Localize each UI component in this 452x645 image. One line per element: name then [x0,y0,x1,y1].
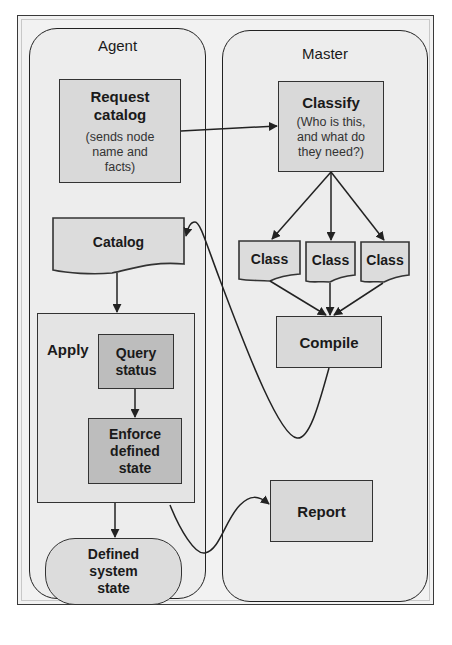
agent-lane-title: Agent [30,37,205,54]
master-lane-title: Master [223,45,427,62]
defined-system-state-node: Defined system state [45,538,182,605]
enforce-line3: state [119,460,152,477]
enforce-line1: Enforce [109,426,161,443]
classify-node: Classify (Who is this, and what do they … [278,81,384,172]
class-3-label: Class [360,252,410,268]
class-node-1: Class [238,240,301,283]
class-node-3: Class [360,241,410,284]
classify-subtitle-line3: they need?) [298,145,364,160]
request-catalog-subtitle-line3: facts) [105,160,136,175]
classify-subtitle-line1: (Who is this, [297,115,366,130]
report-node: Report [270,480,373,542]
query-status-line1: Query [116,345,156,362]
compile-node: Compile [276,316,382,368]
query-status-node: Query status [98,334,174,389]
enforce-defined-state-node: Enforce defined state [88,418,182,484]
defined-system-state-line2: system [88,563,139,580]
compile-label: Compile [299,334,358,351]
catalog-label: Catalog [52,234,185,250]
request-catalog-title-line2: catalog [94,106,147,124]
enforce-line2: defined [110,443,160,460]
apply-label: Apply [47,341,89,358]
defined-system-state-line3: state [88,580,139,597]
request-catalog-subtitle-line1: (sends node [86,130,155,145]
catalog-node: Catalog [52,217,185,275]
query-status-line2: status [115,362,156,379]
classify-title: Classify [302,94,360,112]
request-catalog-node: Request catalog (sends node name and fac… [59,79,181,183]
class-1-label: Class [238,251,301,267]
report-label: Report [297,503,345,520]
class-node-2: Class [305,241,356,284]
classify-subtitle-line2: and what do [297,130,365,145]
request-catalog-subtitle-line2: name and [92,145,148,160]
request-catalog-title-line1: Request [90,88,149,106]
class-2-label: Class [305,252,356,268]
defined-system-state-line1: Defined [88,546,139,563]
